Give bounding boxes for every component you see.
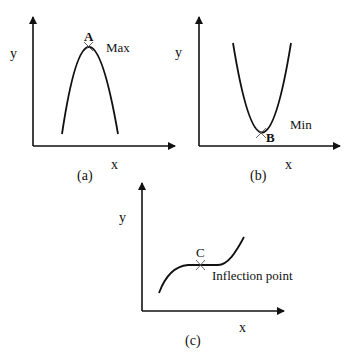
panel-caption-b: (b) <box>250 168 267 184</box>
y-axis-label: y <box>10 46 17 61</box>
point-label-a: A <box>84 29 94 44</box>
min-curve <box>233 43 291 133</box>
panel-c: C Inflection point y x (c) <box>119 183 293 349</box>
x-axis-label: x <box>111 157 118 172</box>
panel-b: B Min y x (b) <box>175 17 340 184</box>
y-axis-label: y <box>119 210 126 225</box>
annotation-max: Max <box>106 40 130 55</box>
panel-caption-c: (c) <box>185 333 201 349</box>
point-label-b: B <box>266 130 275 145</box>
x-axis-label: x <box>239 320 246 335</box>
stationary-points-diagram: A Max y x (a) B Min y x (b) C Inflection… <box>0 0 355 357</box>
panel-a: A Max y x (a) <box>10 17 175 184</box>
x-axis-label: x <box>285 157 292 172</box>
point-label-c: C <box>196 245 205 260</box>
point-b-cross-icon <box>256 128 266 138</box>
annotation-inflection: Inflection point <box>212 268 293 283</box>
panel-caption-a: (a) <box>77 168 93 184</box>
annotation-min: Min <box>290 117 312 132</box>
y-axis-label: y <box>175 45 182 60</box>
max-curve <box>62 47 118 134</box>
